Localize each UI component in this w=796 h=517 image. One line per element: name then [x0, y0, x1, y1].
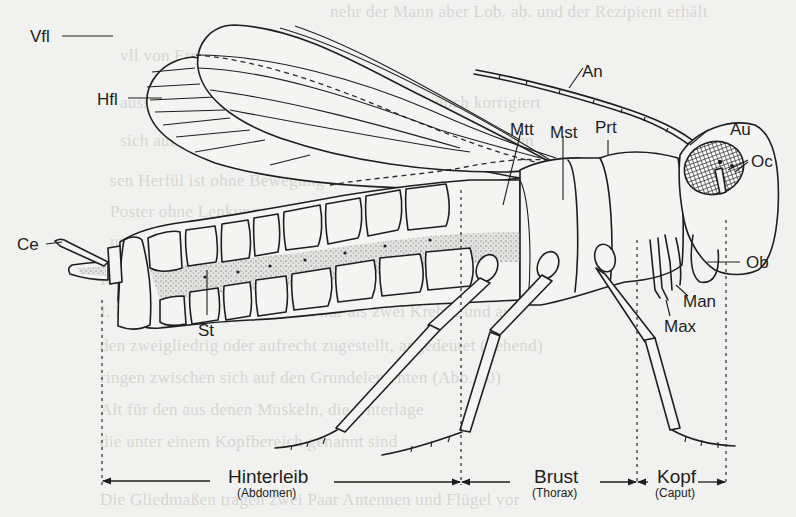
section-label-thorax: Brust — [534, 466, 579, 487]
label-ob: Ob — [746, 253, 769, 272]
insect-anatomy-diagram: Vfl Hfl An Mtt Mst Prt Au Oc Ce Ob Man M… — [0, 0, 796, 517]
label-vfl: Vfl — [30, 27, 50, 46]
label-au: Au — [730, 120, 751, 139]
section-sublabel-abdomen: (Abdomen) — [237, 486, 296, 500]
label-hfl: Hfl — [97, 90, 118, 109]
section-label-abdomen: Hinterleib — [228, 466, 308, 487]
label-max: Max — [664, 317, 697, 336]
label-mst: Mst — [550, 123, 578, 142]
label-ce: Ce — [17, 235, 39, 254]
label-an: An — [582, 62, 603, 81]
label-oc: Oc — [751, 152, 773, 171]
label-prt: Prt — [595, 118, 617, 137]
section-sublabel-head: (Caput) — [655, 486, 695, 500]
label-man: Man — [683, 292, 716, 311]
section-label-head: Kopf — [657, 466, 697, 487]
section-labels: Hinterleib (Abdomen) Brust (Thorax) Kopf… — [228, 466, 697, 500]
label-st: St — [198, 321, 214, 340]
section-sublabel-thorax: (Thorax) — [532, 486, 577, 500]
label-mtt: Mtt — [510, 120, 534, 139]
